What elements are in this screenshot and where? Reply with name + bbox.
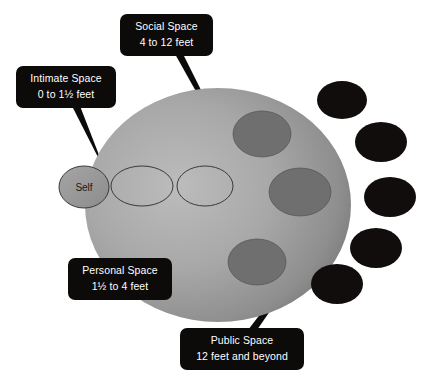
proxemics-canvas: Self Social Space 4 to 12 feet Intimate … (0, 0, 436, 383)
personal-space-title: Personal Space (82, 264, 158, 276)
person-gray-1 (233, 111, 291, 157)
public-space-title: Public Space (211, 334, 274, 346)
intimate-space-title: Intimate Space (30, 72, 101, 84)
intimate-space-range: 0 to 1½ feet (38, 88, 95, 100)
person-black-3 (364, 177, 416, 217)
callout-public-space[interactable]: Public Space 12 feet and beyond (180, 328, 304, 370)
callout-intimate-space[interactable]: Intimate Space 0 to 1½ feet (16, 66, 116, 108)
person-black-2 (355, 122, 407, 162)
callout-personal-space[interactable]: Personal Space 1½ to 4 feet (68, 258, 172, 300)
public-space-range: 12 feet and beyond (196, 350, 288, 362)
person-black-1 (317, 81, 367, 119)
social-space-range: 4 to 12 feet (140, 36, 194, 48)
personal-space-range: 1½ to 4 feet (92, 280, 149, 292)
person-black-5 (311, 264, 363, 304)
person-gray-2 (269, 168, 331, 216)
person-gray-3 (228, 239, 286, 285)
proxemics-diagram: Self Social Space 4 to 12 feet Intimate … (0, 0, 436, 383)
callout-social-space[interactable]: Social Space 4 to 12 feet (120, 14, 213, 56)
social-space-title: Social Space (135, 20, 198, 32)
self-label: Self (75, 182, 92, 193)
person-black-4 (350, 228, 402, 268)
